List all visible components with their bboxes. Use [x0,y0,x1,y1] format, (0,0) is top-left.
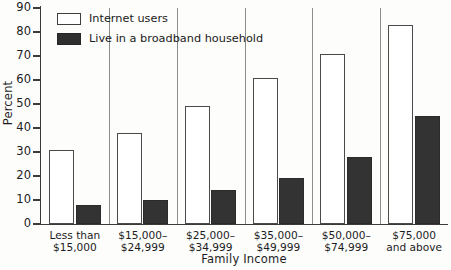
bar-broadband-household [211,190,236,224]
bar-internet-users [320,54,345,224]
y-axis-tick-label-wrap: 10 [0,194,31,206]
y-axis-tick-label: 70 [9,50,31,62]
y-axis-tick-label-wrap: 0 [0,218,31,230]
y-axis-tick-label-wrap: 20 [0,170,31,182]
y-axis-tick-label: 30 [9,146,31,158]
y-axis-tick [33,175,40,176]
bar-internet-users [253,78,278,224]
bar-broadband-household [347,157,372,224]
y-axis-tick-label-wrap: 80 [0,26,31,38]
y-axis-tick [33,79,40,80]
x-axis-category-label: $50,000–$74,999 [312,229,380,253]
legend-swatch-filled-icon [57,33,81,45]
bar-group [380,8,448,224]
y-axis-tick [33,223,40,224]
x-axis-line [40,224,448,225]
y-axis-tick-label: 10 [9,194,31,206]
y-axis-tick [33,151,40,152]
y-axis-tick-label-wrap: 60 [0,74,31,86]
legend-label: Live in a broadband household [89,33,263,45]
bar-internet-users [388,25,413,224]
bar-broadband-household [143,200,168,224]
x-axis-category-label-line: $25,000– [177,229,245,241]
y-axis-tick [33,199,40,200]
legend-label: Internet users [89,13,168,25]
x-axis-category-label: $35,000–$49,999 [245,229,313,253]
y-axis-tick-label-wrap: 30 [0,146,31,158]
y-axis-tick-label: 60 [9,74,31,86]
y-axis-tick-label-wrap: 70 [0,50,31,62]
y-axis-tick [33,31,40,32]
bar-internet-users [117,133,142,224]
bar-broadband-household [279,178,304,224]
y-axis-tick [33,127,40,128]
bar-broadband-household [415,116,440,224]
legend-item-broadband-household: Live in a broadband household [57,30,257,47]
y-axis-tick-label: 80 [9,26,31,38]
bar-group [312,8,380,224]
y-axis-tick-label-wrap: 40 [0,122,31,134]
y-axis-tick-label: 40 [9,122,31,134]
chart-legend: Internet users Live in a broadband house… [57,10,257,50]
y-axis-tick [33,103,40,104]
x-axis-category-label: $15,000–$24,999 [109,229,177,253]
x-axis-category-label: $75,000and above [380,229,448,253]
x-axis-category-label-line: $35,000– [245,229,313,241]
y-axis-tick [33,55,40,56]
bar-broadband-household [76,205,101,224]
bar-internet-users [49,150,74,224]
y-axis-tick-label-wrap: 50 [0,98,31,110]
legend-swatch-open-icon [57,13,81,25]
y-axis-tick-label: 50 [9,98,31,110]
x-axis-category-label-line: $50,000– [312,229,380,241]
x-axis-category-label-line: Less than [41,229,109,241]
x-axis-category-label: Less than$15,000 [41,229,109,253]
x-axis-category-label: $25,000–$34,999 [177,229,245,253]
x-axis-category-label-line: $15,000– [109,229,177,241]
bar-internet-users [185,106,210,224]
y-axis-tick-label: 0 [9,218,31,230]
y-axis-tick [33,7,40,8]
x-axis-category-label-line: $75,000 [380,229,448,241]
legend-item-internet-users: Internet users [57,10,257,27]
bar-chart-figure: Percent 9080706050403020100 Less than$15… [0,0,451,270]
x-axis-title: Family Income [40,252,448,266]
y-axis-tick-label: 20 [9,170,31,182]
y-axis-tick-label-wrap: 90 [0,2,31,14]
y-axis-tick-label: 90 [9,2,31,14]
